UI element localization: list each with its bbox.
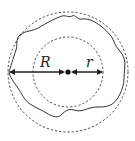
circle-radius-diagram: R r <box>0 0 135 141</box>
center-point <box>65 69 70 74</box>
label-R: R <box>39 54 51 70</box>
irregular-boundary <box>9 16 125 117</box>
label-r: r <box>86 54 94 70</box>
